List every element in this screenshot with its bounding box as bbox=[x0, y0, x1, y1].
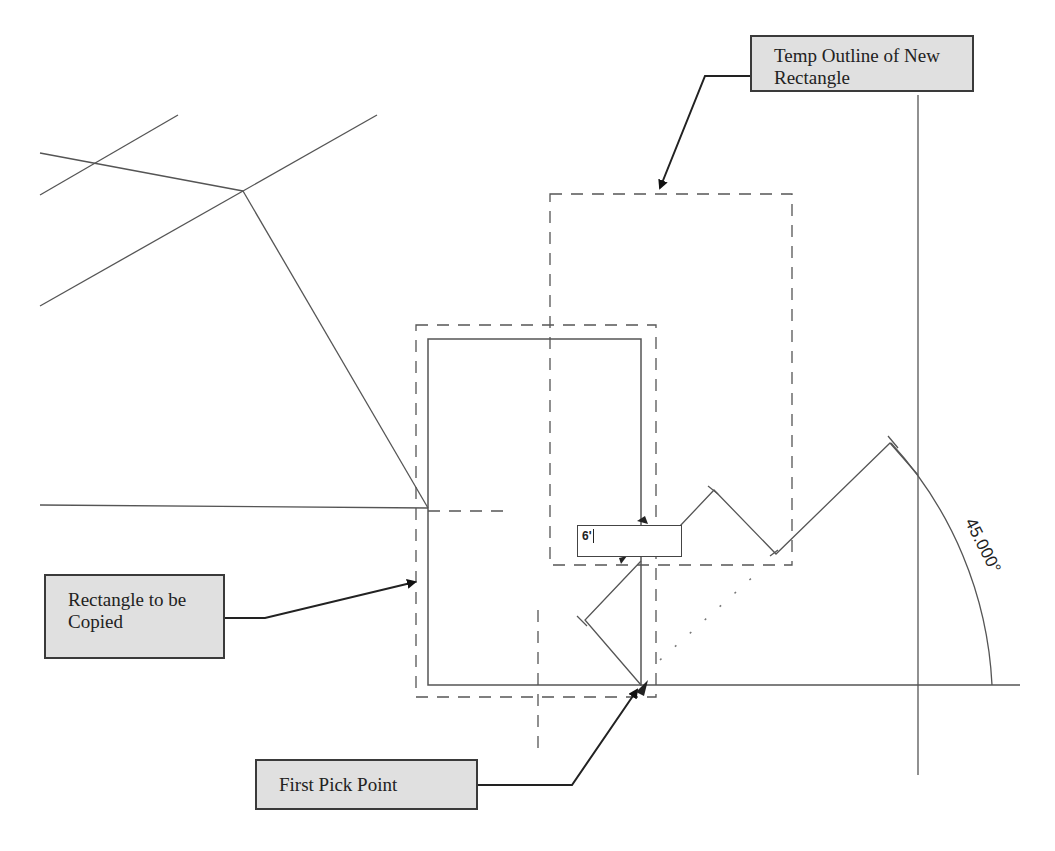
drawing-canvas[interactable] bbox=[0, 0, 1055, 851]
cursor-marker-top bbox=[637, 516, 648, 524]
callout-temp-outline-text: Temp Outline of New Rectangle bbox=[774, 45, 940, 88]
cursor-marker-bottom bbox=[619, 556, 627, 564]
move-path-zigzag bbox=[577, 436, 918, 685]
dimension-input[interactable]: 6' bbox=[577, 525, 682, 557]
callout-temp-outline: Temp Outline of New Rectangle bbox=[750, 35, 974, 92]
callout-rectangle-to-copy-text: Rectangle to be Copied bbox=[68, 589, 186, 632]
callout-leaders bbox=[224, 76, 750, 785]
original-rectangle[interactable] bbox=[428, 339, 641, 685]
pick-point-marker bbox=[636, 680, 648, 696]
callout-rectangle-to-copy: Rectangle to be Copied bbox=[44, 574, 225, 659]
text-caret bbox=[593, 529, 594, 543]
callout-first-pick-point-text: First Pick Point bbox=[279, 774, 397, 795]
angle-guide-dotted bbox=[660, 575, 755, 660]
dimension-input-value: 6' bbox=[582, 529, 592, 543]
angle-arc bbox=[891, 443, 992, 685]
temp-outline-new-rectangle bbox=[550, 194, 792, 565]
callout-first-pick-point: First Pick Point bbox=[255, 759, 478, 810]
wall-lines bbox=[40, 115, 428, 508]
